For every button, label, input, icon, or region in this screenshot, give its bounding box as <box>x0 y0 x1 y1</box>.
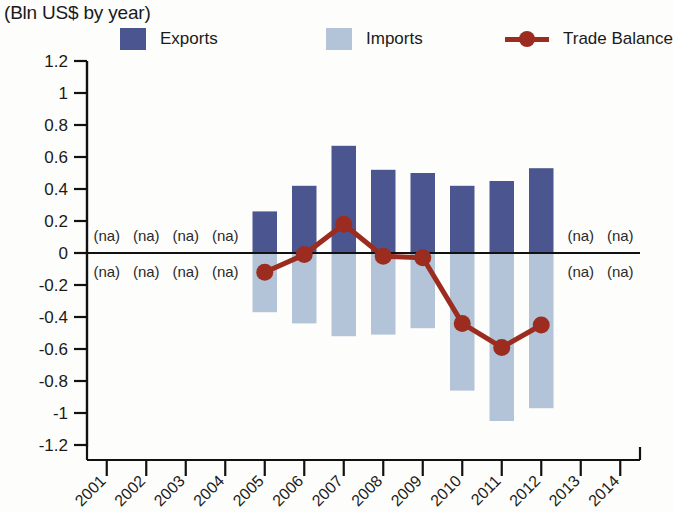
trade-balance-point[interactable] <box>296 246 313 263</box>
y-axis-ticks <box>74 61 87 445</box>
x-tick-label: 2010 <box>427 472 464 509</box>
y-tick-label: 0.4 <box>44 180 68 199</box>
trade-balance-point[interactable] <box>335 216 352 233</box>
x-tick-label: 2009 <box>388 472 425 509</box>
imports-bar[interactable] <box>253 253 277 312</box>
x-axis-ticks <box>107 460 621 476</box>
imports-bar[interactable] <box>490 253 514 421</box>
x-tick-label: 2013 <box>546 472 583 509</box>
trade-balance-point[interactable] <box>454 315 471 332</box>
na-label-below: (na) <box>567 263 594 280</box>
y-tick-label: -0.8 <box>39 372 68 391</box>
trade-balance-point[interactable] <box>256 264 273 281</box>
exports-bar[interactable] <box>529 168 553 253</box>
x-tick-label: 2008 <box>348 472 385 509</box>
x-tick-label: 2005 <box>230 472 267 509</box>
na-label-above: (na) <box>567 227 594 244</box>
na-label-below: (na) <box>172 263 199 280</box>
trade-balance-point[interactable] <box>375 248 392 265</box>
y-axis-labels: 1.210.80.60.40.20-0.2-0.4-0.6-0.8-1-1.2 <box>39 52 68 455</box>
x-tick-label: 2012 <box>506 472 543 509</box>
na-label-below: (na) <box>212 263 239 280</box>
y-tick-label: 0.2 <box>44 212 68 231</box>
y-tick-label: 0 <box>59 244 68 263</box>
x-tick-label: 2007 <box>309 472 346 509</box>
na-label-above: (na) <box>172 227 199 244</box>
y-tick-label: -0.6 <box>39 340 68 359</box>
y-tick-label: -1.2 <box>39 436 68 455</box>
na-label-above: (na) <box>212 227 239 244</box>
imports-bar[interactable] <box>292 253 316 323</box>
x-tick-label: 2003 <box>151 472 188 509</box>
exports-bars <box>253 146 554 253</box>
exports-bar[interactable] <box>292 186 316 253</box>
y-tick-label: 1.2 <box>44 52 68 71</box>
na-label-below: (na) <box>133 263 160 280</box>
imports-bar[interactable] <box>332 253 356 336</box>
na-label-below: (na) <box>93 263 120 280</box>
x-tick-label: 2001 <box>72 472 109 509</box>
trade-balance-point[interactable] <box>414 249 431 266</box>
y-tick-label: 1 <box>59 84 68 103</box>
trade-balance-point[interactable] <box>533 317 550 334</box>
y-tick-label: -0.4 <box>39 308 68 327</box>
exports-bar[interactable] <box>253 211 277 253</box>
trade-balance-point[interactable] <box>493 339 510 356</box>
na-label-below: (na) <box>607 263 634 280</box>
x-tick-label: 2014 <box>585 472 622 509</box>
x-tick-label: 2011 <box>468 472 504 508</box>
x-tick-label: 2004 <box>190 472 227 509</box>
exports-bar[interactable] <box>450 186 474 253</box>
exports-bar[interactable] <box>371 170 395 253</box>
exports-bar[interactable] <box>490 181 514 253</box>
imports-bars <box>253 253 554 421</box>
y-tick-label: -1 <box>53 404 68 423</box>
na-label-above: (na) <box>133 227 160 244</box>
na-label-above: (na) <box>93 227 120 244</box>
exports-bar[interactable] <box>332 146 356 253</box>
imports-bar[interactable] <box>371 253 395 335</box>
y-tick-label: -0.2 <box>39 276 68 295</box>
x-tick-label: 2006 <box>269 472 306 509</box>
y-tick-label: 0.8 <box>44 116 68 135</box>
exports-bar[interactable] <box>411 173 435 253</box>
x-axis-labels: 2001200220032004200520062007200820092010… <box>72 472 623 509</box>
x-tick-label: 2002 <box>111 472 148 509</box>
y-tick-label: 0.6 <box>44 148 68 167</box>
na-label-above: (na) <box>607 227 634 244</box>
